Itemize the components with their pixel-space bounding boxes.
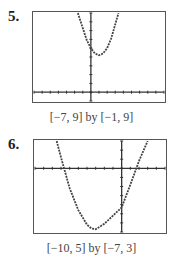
chart-6-window-caption: [−10, 5] by [−7, 3] bbox=[0, 241, 183, 256]
chart-6-plot bbox=[0, 0, 183, 262]
